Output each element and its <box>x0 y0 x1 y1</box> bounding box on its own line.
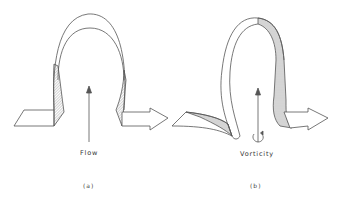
diagram-canvas <box>0 0 340 202</box>
panel-a-caption: (a) <box>83 182 94 189</box>
panel-a-loop <box>14 14 168 142</box>
panel-b-caption: (b) <box>250 182 262 189</box>
flow-label: Flow <box>80 149 98 157</box>
vorticity-label: Vorticity <box>240 150 274 158</box>
panel-b-loop <box>172 18 328 142</box>
